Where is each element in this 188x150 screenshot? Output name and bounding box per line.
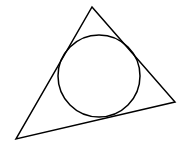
- triangle: [16, 7, 175, 139]
- inscribed-circle: [58, 35, 140, 117]
- incircle-diagram: [0, 0, 188, 150]
